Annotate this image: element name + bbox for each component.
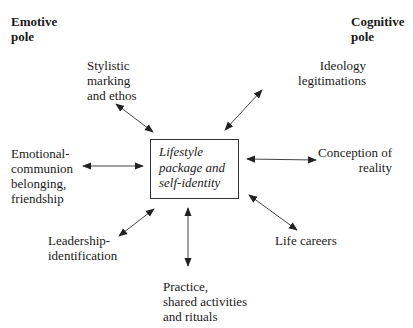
emotional-communion-label: Emotional- communion belonging, friendsh… — [11, 146, 73, 206]
cognitive-pole-label: Cognitive pole — [351, 14, 404, 44]
leadership-identification-label: Leadership- identification — [48, 233, 117, 263]
lifestyle-center-label: Lifestyle package and self-identity — [159, 144, 225, 191]
conception-of-reality-label: Conception of reality — [300, 145, 392, 175]
arrow-stylistic — [116, 104, 153, 132]
emotive-pole-label: Emotive pole — [11, 14, 57, 44]
lifestyle-center-box: Lifestyle package and self-identity — [150, 139, 239, 199]
arrow-ideology — [225, 90, 262, 130]
ideology-legitimations-label: Ideology legitimations — [256, 58, 366, 88]
life-careers-label: Life careers — [275, 233, 337, 248]
lifestyle-diagram: Emotive pole Cognitive pole Stylistic ma… — [0, 0, 413, 328]
arrow-life-careers — [249, 195, 297, 230]
stylistic-marking-label: Stylistic marking and ethos — [87, 58, 136, 103]
practice-shared-activities-label: Practice, shared activities and rituals — [163, 279, 247, 324]
arrow-leadership — [119, 209, 154, 236]
